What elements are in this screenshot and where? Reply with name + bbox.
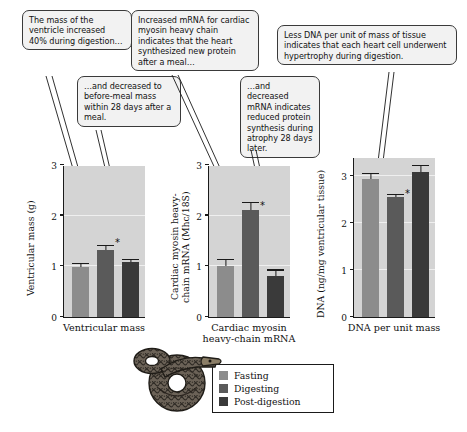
y-tick-label: 2 — [327, 219, 347, 229]
y-axis-label: Ventricular mass (g) — [26, 188, 37, 308]
callout-text: Less DNA per unit of mass of tissue indi… — [284, 30, 450, 61]
y-tick — [350, 222, 354, 223]
callout-ventricle-mass-decrease: …and decreased to before-meal mass withi… — [77, 76, 181, 127]
bar-fasting — [72, 267, 89, 317]
y-tick — [60, 316, 64, 317]
y-tick — [205, 316, 209, 317]
y-tick — [350, 269, 354, 270]
y-tick-label: 2 — [182, 212, 202, 222]
legend-label: Post-digestion — [234, 396, 301, 407]
errorbar-fasting — [217, 259, 234, 267]
y-tick-label: 3 — [327, 172, 347, 182]
y-tick-label: 0 — [37, 313, 57, 323]
y-tick-label: 1 — [182, 262, 202, 272]
plot-area: 0 1 2 3 * — [353, 158, 435, 318]
y-tick — [205, 265, 209, 266]
errorbar-digesting — [387, 194, 404, 197]
bar-post-digestion — [412, 172, 429, 317]
scientific-figure: The mass of the ventricle increased 40% … — [0, 0, 467, 432]
callout-text: The mass of the ventricle increased 40% … — [29, 15, 125, 46]
legend-label: Fasting — [234, 370, 269, 381]
errorbar-digesting — [242, 202, 259, 210]
y-axis-label: Cardiac myosin heavy-chain mRNA (Mhc/18S… — [170, 186, 192, 308]
coiled-python-snake-illustration — [131, 325, 223, 417]
bar-post-digestion — [122, 262, 139, 317]
y-tick — [205, 214, 209, 215]
callout-text: …and decreased to before-meal mass withi… — [84, 81, 174, 123]
y-tick-label: 1 — [327, 266, 347, 276]
y-tick-label: 0 — [327, 313, 347, 323]
y-tick-label: 1 — [37, 262, 57, 272]
y-tick — [60, 265, 64, 266]
errorbar-fasting — [362, 173, 379, 179]
bar-fasting — [362, 179, 379, 317]
errorbar-post-digestion — [412, 165, 429, 172]
plot-area: 0 1 2 3 * — [63, 166, 145, 318]
legend: Fasting Digesting Post-digestion — [212, 364, 334, 413]
callout-mrna-increase: Increased mRNA for cardiac myosin heavy … — [131, 10, 259, 71]
errorbar-fasting — [72, 263, 89, 268]
significance-marker-digesting: * — [405, 191, 410, 197]
y-tick-label: 3 — [37, 161, 57, 171]
legend-item-post-digestion: Post-digestion — [219, 395, 327, 408]
y-tick — [60, 214, 64, 215]
y-tick — [350, 316, 354, 317]
bar-digesting — [242, 210, 259, 317]
callout-mrna-decrease: …and decreased mRNA indicates reduced pr… — [240, 76, 320, 158]
bar-post-digestion — [267, 276, 284, 317]
y-tick — [60, 164, 64, 165]
significance-marker-digesting: * — [115, 240, 120, 246]
callout-text: …and decreased mRNA indicates reduced pr… — [247, 81, 313, 154]
x-axis-label: DNA per unit mass — [345, 322, 443, 333]
bar-digesting — [387, 197, 404, 317]
gridline — [64, 215, 145, 216]
legend-label: Digesting — [234, 383, 279, 394]
significance-marker-digesting: * — [260, 203, 265, 209]
plot-area: 0 1 2 3 * — [208, 166, 290, 318]
callout-text: Increased mRNA for cardiac myosin heavy … — [138, 15, 252, 67]
bar-digesting — [97, 250, 114, 317]
legend-item-fasting: Fasting — [219, 369, 327, 382]
y-tick-label: 2 — [37, 212, 57, 222]
errorbar-digesting — [97, 245, 114, 250]
legend-item-digesting: Digesting — [219, 382, 327, 395]
errorbar-post-digestion — [122, 259, 139, 263]
y-tick-label: 3 — [182, 161, 202, 171]
bar-fasting — [217, 266, 234, 317]
y-axis-label: DNA (ng/mg ventricular tissue) — [316, 176, 327, 318]
y-tick — [205, 164, 209, 165]
callout-dna-hypertrophy: Less DNA per unit of mass of tissue indi… — [277, 25, 457, 65]
y-tick — [350, 175, 354, 176]
errorbar-post-digestion — [267, 269, 284, 276]
callout-ventricle-mass-increase: The mass of the ventricle increased 40% … — [22, 10, 132, 50]
